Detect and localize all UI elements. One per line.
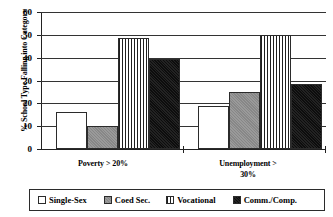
legend-swatch-icon: [38, 196, 46, 204]
legend-entry-coed-sec[interactable]: Coed Sec.: [104, 195, 150, 205]
legend-swatch-icon: [233, 196, 241, 204]
bar-0-0: [56, 112, 87, 149]
y-tick-20: 20: [37, 103, 41, 104]
y-tick-label-10: 10: [23, 121, 32, 131]
y-tick-label-30: 30: [23, 76, 32, 86]
legend-label: Coed Sec.: [115, 195, 150, 205]
x-axis-group-label-1: Unemployment >30%: [188, 158, 308, 180]
y-tick-label-40: 40: [23, 53, 32, 63]
x-axis-end-tick: [325, 146, 326, 153]
bar-1-1: [229, 92, 260, 149]
legend-label: Single-Sex: [49, 195, 87, 205]
x-axis-group-divider-tick: [183, 146, 184, 153]
legend-label: Comm./Comp.: [244, 195, 297, 205]
legend-swatch-icon: [104, 196, 112, 204]
y-tick-40: 40: [37, 58, 41, 59]
bar-1-2: [260, 35, 291, 149]
y-tick-label-60: 60: [23, 7, 32, 17]
bar-1-3: [291, 84, 322, 149]
x-axis-group-label-0: Poverty > 20%: [48, 158, 158, 169]
bar-chart: % School Type Falling into Category 0102…: [0, 0, 333, 217]
y-tick-label-20: 20: [23, 98, 32, 108]
y-tick-50: 50: [37, 35, 41, 36]
y-tick-60: 60: [37, 12, 41, 13]
plot-area: 0102030405060: [41, 13, 326, 150]
gridline-60: [41, 12, 326, 13]
y-tick-30: 30: [37, 81, 41, 82]
legend-entry-comm-comp[interactable]: Comm./Comp.: [233, 195, 297, 205]
y-tick-label-50: 50: [23, 30, 32, 40]
legend-entry-vocational[interactable]: Vocational: [166, 195, 215, 205]
x-axis-group-label-line: Unemployment >: [188, 158, 308, 169]
bar-0-1: [87, 126, 118, 149]
y-tick-label-0: 0: [28, 144, 33, 154]
bar-1-0: [198, 106, 229, 149]
legend-swatch-icon: [166, 196, 174, 204]
y-tick-0: 0: [37, 149, 41, 150]
x-axis-group-label-line: 30%: [188, 169, 308, 180]
bar-0-2: [118, 38, 149, 149]
legend-label: Vocational: [177, 195, 215, 205]
x-axis-group-label-line: Poverty > 20%: [48, 158, 158, 169]
bar-0-3: [149, 59, 180, 149]
chart-legend: Single-SexCoed Sec.VocationalComm./Comp.: [29, 189, 325, 211]
y-axis-line: [41, 13, 42, 150]
y-tick-10: 10: [37, 126, 41, 127]
legend-entry-single-sex[interactable]: Single-Sex: [38, 195, 87, 205]
